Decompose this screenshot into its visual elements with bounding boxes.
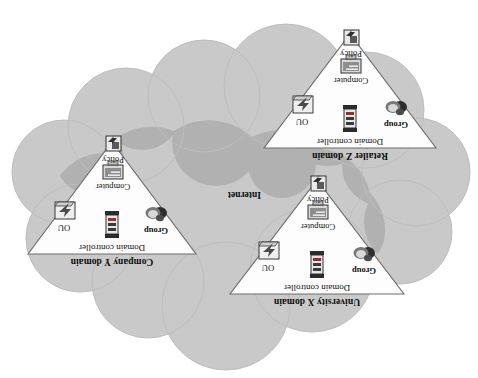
domain-retailer-z[interactable]: Retailer Z domain Domain controller Grou… [262,32,438,160]
node-group[interactable]: Group [368,98,424,136]
ou-folder-icon [274,93,330,115]
policy-scroll-icon [85,134,141,153]
node-policy[interactable]: Policy [323,28,379,65]
node-label: Policy [102,155,124,165]
diagram-canvas: Internet University X domain Domain cont… [0,0,478,378]
node-label: Policy [307,195,329,205]
node-label: Computer [96,182,130,192]
group-icon [128,204,184,224]
node-ou[interactable]: OU [274,93,330,133]
node-label: OU [296,117,308,127]
node-label: Computer [334,76,368,86]
domain-controller-label: Domain controller [262,137,438,147]
node-label: OU [58,223,70,233]
domain-name-label: Company Y domain [26,257,198,267]
node-label: Policy [340,49,362,59]
node-label: Group [352,266,376,276]
group-icon [368,98,424,118]
policy-scroll-icon [323,28,379,47]
node-ou[interactable]: OU [36,199,92,239]
domain-university-x[interactable]: University X domain Domain controller Gr… [228,178,406,306]
node-label: OU [262,263,274,273]
domain-name-label: Retailer Z domain [262,151,438,161]
policy-scroll-icon [290,174,346,193]
node-label: Group [384,120,408,130]
domain-controller-label: Domain controller [26,243,198,253]
node-group[interactable]: Group [128,204,184,242]
node-policy[interactable]: Policy [290,174,346,211]
node-label: Computer [301,222,335,232]
domain-company-y[interactable]: Company Y domain Domain controller Group [26,140,198,266]
ou-folder-icon [36,199,92,221]
domain-controller-label: Domain controller [228,283,406,293]
node-label: Group [144,226,168,236]
node-group[interactable]: Group [336,244,392,282]
ou-folder-icon [240,239,296,261]
domain-controller-icon [102,205,122,239]
domain-name-label: University X domain [228,297,406,307]
group-icon [336,244,392,264]
domain-controller-icon [307,245,327,279]
node-policy[interactable]: Policy [85,134,141,171]
node-ou[interactable]: OU [240,239,296,279]
domain-controller-icon [340,99,360,133]
